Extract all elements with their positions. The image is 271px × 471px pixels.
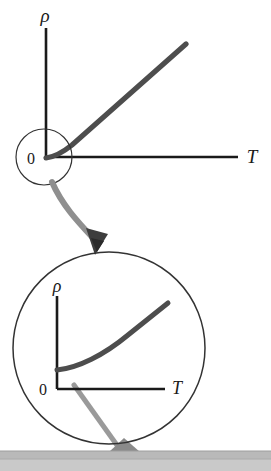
main-plot-x-axis-label: T — [247, 146, 259, 167]
ground-bar-group — [0, 451, 271, 471]
main-plot-origin-label: 0 — [27, 150, 35, 167]
ground-bar-upper — [0, 451, 271, 459]
magnified-plot-origin-label: 0 — [39, 381, 47, 398]
ground-bar-lower — [0, 459, 271, 471]
magnified-plot-y-axis-label: ρ — [52, 276, 62, 296]
figure-root: ρ T 0 ρ T 0 — [0, 0, 271, 471]
physics-figure: ρ T 0 ρ T 0 — [0, 0, 271, 471]
main-plot-y-axis-label: ρ — [39, 5, 49, 26]
